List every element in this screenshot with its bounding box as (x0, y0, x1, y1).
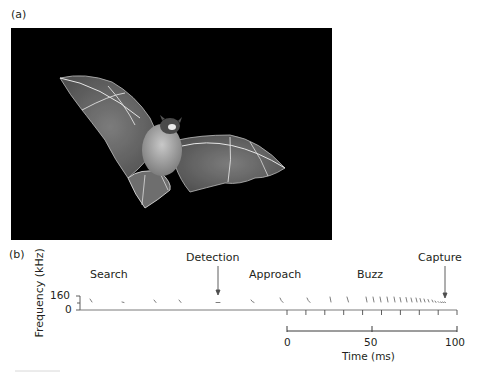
detection-arrow (216, 266, 220, 295)
time-scale-bar (287, 326, 457, 332)
echolocation-chart (0, 0, 480, 372)
x-ticks (287, 310, 457, 315)
echolocation-pulses (90, 297, 446, 303)
y-axis (76, 296, 80, 310)
capture-arrow (443, 266, 447, 298)
